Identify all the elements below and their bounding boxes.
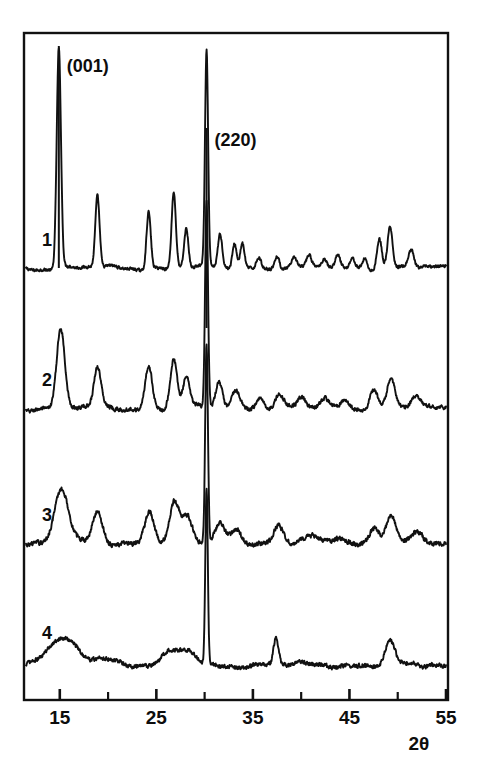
- x-tick-label-45: 45: [339, 707, 361, 728]
- plot-background: [0, 0, 480, 765]
- trace-3-label: 3: [42, 505, 52, 525]
- trace-2-label: 2: [42, 370, 52, 390]
- x-tick-label-35: 35: [242, 707, 264, 728]
- trace-4-label: 4: [42, 623, 52, 643]
- trace-1-label: 1: [42, 230, 52, 250]
- peak-label-001: (001): [67, 56, 109, 76]
- x-tick-label-25: 25: [146, 707, 168, 728]
- peak-label-220: (220): [215, 130, 257, 150]
- x-axis-title: 2θ: [409, 733, 430, 754]
- xrd-plot-svg: 1525354555 1234 (001)(220) 2θ: [0, 0, 480, 765]
- xrd-figure: 1525354555 1234 (001)(220) 2θ: [0, 0, 480, 765]
- x-tick-label-15: 15: [49, 707, 71, 728]
- x-axis-label: 2θ: [409, 733, 430, 754]
- x-tick-label-55: 55: [435, 707, 457, 728]
